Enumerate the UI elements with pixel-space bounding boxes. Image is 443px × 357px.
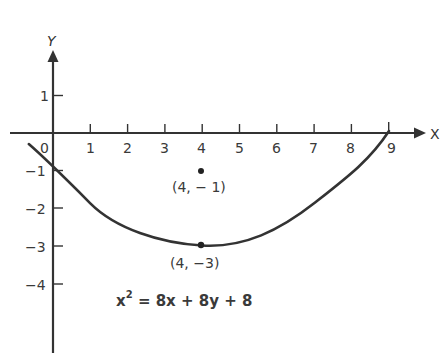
x-tick-label: 4 <box>197 140 206 156</box>
y-tick-label: −2 <box>25 201 46 217</box>
y-axis-arrow-icon <box>48 50 59 62</box>
x-tick-label: 5 <box>235 140 244 156</box>
equation: x2 = 8x + 8y + 8 <box>116 289 252 310</box>
x-tick-label: 8 <box>346 140 355 156</box>
y-tick-label: −3 <box>25 239 46 255</box>
y-tick-label: −1 <box>25 163 46 179</box>
y-tick-label: 1 <box>40 88 49 104</box>
equation-base: x <box>116 292 126 310</box>
y-ticks <box>53 96 63 285</box>
x-tick-labels: 0 1 2 3 4 5 6 7 8 9 <box>40 140 396 156</box>
focus-point-label: (4, − 1) <box>172 179 226 195</box>
origin-label: 0 <box>40 140 49 156</box>
x-axis-label: X <box>430 126 440 142</box>
y-tick-labels: 1 −1 −2 −3 −4 <box>25 88 49 293</box>
equation-exponent: 2 <box>126 289 133 300</box>
parabola-diagram: X Y 0 1 2 3 4 5 6 7 8 9 1 <box>0 0 443 357</box>
svg-text:x2 = 8x + 8y + 8: x2 = 8x + 8y + 8 <box>116 289 252 310</box>
x-tick-label: 7 <box>309 140 318 156</box>
x-tick-label: 1 <box>86 140 95 156</box>
y-axis: Y <box>47 33 59 353</box>
x-axis: X <box>10 126 440 142</box>
vertex-point-label: (4, −3) <box>170 255 219 271</box>
x-tick-label: 9 <box>387 140 396 156</box>
x-tick-label: 2 <box>123 140 132 156</box>
y-tick-label: −4 <box>25 277 46 293</box>
x-axis-arrow-icon <box>414 128 426 139</box>
y-axis-label: Y <box>47 33 57 49</box>
x-tick-label: 6 <box>272 140 281 156</box>
x-ticks <box>90 122 388 133</box>
equation-rhs: = 8x + 8y + 8 <box>133 292 253 310</box>
x-tick-label: 3 <box>160 140 169 156</box>
focus-point: (4, − 1) <box>172 168 226 195</box>
